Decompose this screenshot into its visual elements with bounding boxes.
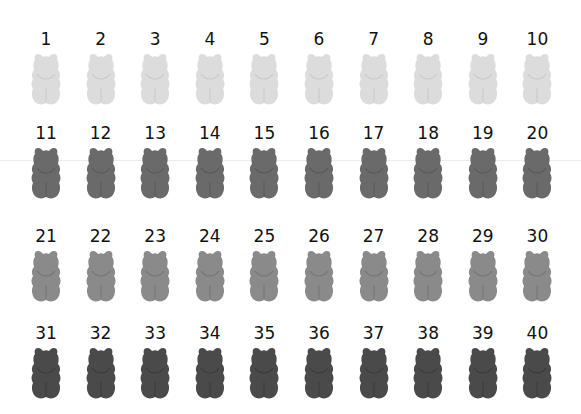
bear-number-label: 39 xyxy=(456,324,510,342)
gummy-bear-icon xyxy=(140,52,170,106)
gummy-bear-icon xyxy=(195,249,225,303)
gummy-bear-icon xyxy=(413,249,443,303)
bear-number-label: 7 xyxy=(347,30,401,48)
bear-number-label: 16 xyxy=(292,124,346,142)
bear-number-label: 27 xyxy=(347,227,401,245)
gummy-bear-icon xyxy=(468,52,498,106)
gummy-bear-icon xyxy=(140,249,170,303)
bear-number-label: 23 xyxy=(128,227,182,245)
bear-number-label: 25 xyxy=(237,227,291,245)
bear-number-label: 4 xyxy=(183,30,237,48)
bear-number-label: 8 xyxy=(401,30,455,48)
bear-number-label: 26 xyxy=(292,227,346,245)
gummy-bear-icon xyxy=(413,52,443,106)
bear-number-label: 37 xyxy=(347,324,401,342)
gummy-bear-icon xyxy=(304,52,334,106)
gummy-bear-icon xyxy=(140,146,170,200)
bear-number-label: 21 xyxy=(19,227,73,245)
gummy-bear-icon xyxy=(359,346,389,400)
gummy-bear-icon xyxy=(468,346,498,400)
gummy-bear-icon xyxy=(31,249,61,303)
bear-number-label: 5 xyxy=(237,30,291,48)
bear-number-label: 12 xyxy=(74,124,128,142)
gummy-bear-icon xyxy=(31,146,61,200)
bear-number-label: 6 xyxy=(292,30,346,48)
gummy-bear-icon xyxy=(86,346,116,400)
bear-number-label: 33 xyxy=(128,324,182,342)
gummy-bear-icon xyxy=(86,146,116,200)
bear-number-label: 22 xyxy=(74,227,128,245)
bear-number-label: 20 xyxy=(510,124,564,142)
gummy-bear-icon xyxy=(468,249,498,303)
gummy-bear-icon xyxy=(304,346,334,400)
gummy-bear-icon xyxy=(86,249,116,303)
bear-number-label: 11 xyxy=(19,124,73,142)
bear-number-label: 40 xyxy=(510,324,564,342)
bear-number-label: 18 xyxy=(401,124,455,142)
gummy-bear-icon xyxy=(249,249,279,303)
bear-number-label: 10 xyxy=(510,30,564,48)
gummy-bear-icon xyxy=(359,249,389,303)
bear-number-label: 2 xyxy=(74,30,128,48)
gummy-bear-icon xyxy=(249,346,279,400)
gummy-bear-icon xyxy=(31,52,61,106)
gummy-bear-icon xyxy=(304,146,334,200)
bear-number-label: 29 xyxy=(456,227,510,245)
gummy-bear-icon xyxy=(522,52,552,106)
gummy-bear-icon xyxy=(468,146,498,200)
bear-number-label: 19 xyxy=(456,124,510,142)
gummy-bear-icon xyxy=(522,346,552,400)
gummy-bear-icon xyxy=(31,346,61,400)
gummy-bear-icon xyxy=(522,146,552,200)
gummy-bear-icon xyxy=(195,346,225,400)
bear-number-label: 3 xyxy=(128,30,182,48)
bear-number-label: 30 xyxy=(510,227,564,245)
bear-number-label: 1 xyxy=(19,30,73,48)
bear-number-label: 14 xyxy=(183,124,237,142)
bear-number-label: 28 xyxy=(401,227,455,245)
gummy-bear-icon xyxy=(249,52,279,106)
bear-number-label: 38 xyxy=(401,324,455,342)
bear-number-label: 13 xyxy=(128,124,182,142)
gummy-bear-icon xyxy=(359,146,389,200)
bear-number-label: 9 xyxy=(456,30,510,48)
gummy-bear-icon xyxy=(140,346,170,400)
gummy-bear-icon xyxy=(195,52,225,106)
bear-number-label: 31 xyxy=(19,324,73,342)
gummy-bear-icon xyxy=(86,52,116,106)
gummy-bear-icon xyxy=(413,146,443,200)
gummy-bear-icon xyxy=(522,249,552,303)
bear-number-label: 36 xyxy=(292,324,346,342)
bear-number-label: 32 xyxy=(74,324,128,342)
gummy-bear-icon xyxy=(304,249,334,303)
bear-number-label: 35 xyxy=(237,324,291,342)
bear-number-label: 34 xyxy=(183,324,237,342)
gummy-bear-icon xyxy=(249,146,279,200)
bear-number-label: 24 xyxy=(183,227,237,245)
bear-number-label: 17 xyxy=(347,124,401,142)
gummy-bear-icon xyxy=(413,346,443,400)
bear-number-label: 15 xyxy=(237,124,291,142)
gummy-bear-icon xyxy=(195,146,225,200)
gummy-bear-icon xyxy=(359,52,389,106)
